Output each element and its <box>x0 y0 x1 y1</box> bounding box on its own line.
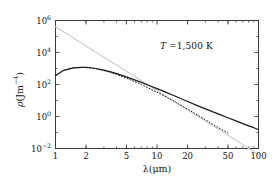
plot-frame-rect <box>56 21 259 149</box>
x-axis-title: λ(μm) <box>55 163 259 174</box>
y-tick-label: 106 <box>18 16 51 25</box>
plot-canvas <box>0 0 277 185</box>
y-tick-exponent: −2 <box>42 141 51 148</box>
y-tick-exponent: 2 <box>47 77 51 84</box>
temperature-value: =1,500 K <box>166 41 213 51</box>
y-tick-label: 10−2 <box>18 144 51 153</box>
data-series-group <box>56 27 259 155</box>
series-rayleigh-jeans <box>56 27 259 155</box>
blackbody-spectrum-figure: 10610410210010−2 125102050100 ρ(Jm−4) λ(… <box>0 0 277 185</box>
y-tick-exponent: 4 <box>47 45 51 52</box>
series-planck <box>56 67 259 129</box>
x-tick-label: 2 <box>83 152 88 161</box>
y-tick-exponent: 0 <box>47 109 51 116</box>
y-axis-title-rho: ρ <box>14 101 25 107</box>
x-tick-label: 50 <box>222 152 233 161</box>
x-tick-label: 5 <box>124 152 129 161</box>
series-wien-approximation <box>56 67 228 133</box>
x-tick-label: 20 <box>182 152 193 161</box>
y-axis-title-exponent: −4 <box>12 76 19 85</box>
plot-frame <box>56 21 259 149</box>
tick-marks-group <box>56 21 259 149</box>
x-tick-label: 1 <box>53 152 58 161</box>
temperature-annotation: T =1,500 K <box>160 41 213 51</box>
x-tick-label: 10 <box>152 152 163 161</box>
y-axis-title-units: (Jm−4) <box>14 72 25 101</box>
y-tick-exponent: 6 <box>47 13 51 20</box>
x-tick-label: 100 <box>250 152 266 161</box>
y-axis-title: ρ(Jm−4) <box>14 55 25 125</box>
